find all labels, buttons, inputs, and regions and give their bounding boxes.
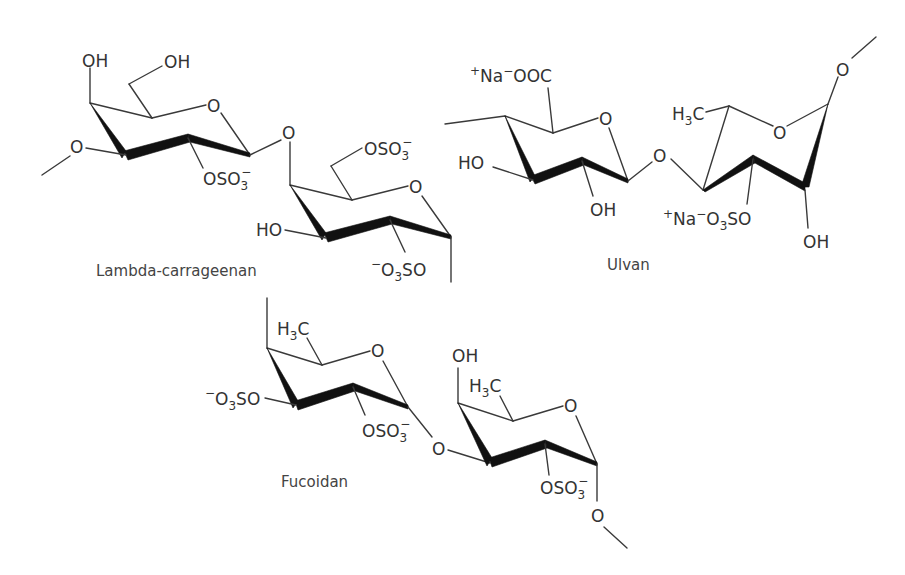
methyl-label: H3C bbox=[469, 376, 501, 400]
sulfate-label: OSO3− bbox=[362, 417, 410, 445]
glycosidic-oxygen-label: O bbox=[70, 137, 83, 157]
lambda-carrageenan-structure: OH OH O O OSO3− O bbox=[42, 51, 451, 284]
caption-ulvan: Ulvan bbox=[607, 256, 650, 274]
ring-oxygen-label: O bbox=[371, 341, 384, 361]
ho-label: HO bbox=[458, 153, 484, 173]
sulfate-label: OSO3− bbox=[540, 474, 588, 502]
fucoidan-ring-2: OH H3C O OSO3− O bbox=[448, 346, 627, 548]
methyl-label: H3C bbox=[277, 319, 309, 343]
sulfate-label: −O3SO bbox=[371, 257, 426, 284]
sodium-carboxylate-label: +Na−OOC bbox=[470, 64, 552, 86]
fucoidan-ring-1: H3C O −O3SO OSO3− O bbox=[205, 298, 445, 459]
oh-label: OH bbox=[82, 51, 108, 71]
ulvan-ring-1: +Na−OOC O HO OH O bbox=[445, 64, 666, 220]
glycosidic-oxygen-label: O bbox=[653, 146, 666, 166]
polysaccharide-structures-diagram: OH OH O O OSO3− O bbox=[0, 0, 905, 575]
sulfate-label: OSO3− bbox=[203, 165, 251, 193]
lambda-ring-2: OSO3− O HO −O3SO bbox=[256, 135, 451, 284]
ring-oxygen-label: O bbox=[599, 109, 612, 129]
ring-oxygen-label: O bbox=[207, 96, 220, 116]
glycosidic-oxygen-label: O bbox=[282, 123, 295, 143]
oh-label: OH bbox=[803, 232, 829, 252]
caption-fucoidan: Fucoidan bbox=[281, 473, 348, 491]
oh-label: OH bbox=[452, 346, 478, 366]
oh-label: OH bbox=[590, 200, 616, 220]
ulvan-ring-2: H3C O +Na−O3SO OH O bbox=[663, 37, 876, 252]
sulfate-label: OSO3− bbox=[364, 135, 412, 163]
glycosidic-oxygen-label: O bbox=[836, 60, 849, 80]
sulfate-label: −O3SO bbox=[205, 386, 260, 413]
oh-label: OH bbox=[164, 52, 190, 72]
ho-label: HO bbox=[256, 220, 282, 240]
ulvan-structure: +Na−OOC O HO OH O H3C O +N bbox=[445, 37, 876, 274]
ring-oxygen-label: O bbox=[409, 177, 422, 197]
fucoidan-structure: H3C O −O3SO OSO3− O OH bbox=[205, 298, 627, 548]
glycosidic-oxygen-label: O bbox=[591, 506, 604, 526]
glycosidic-oxygen-label: O bbox=[432, 439, 445, 459]
methyl-label: H3C bbox=[672, 104, 704, 128]
lambda-ring-1: OH OH O O OSO3− O bbox=[42, 51, 295, 193]
ring-oxygen-label: O bbox=[564, 396, 577, 416]
ring-oxygen-label: O bbox=[773, 123, 786, 143]
caption-lambda-carrageenan: Lambda-carrageenan bbox=[96, 262, 257, 280]
sodium-sulfate-label: +Na−O3SO bbox=[663, 207, 751, 233]
